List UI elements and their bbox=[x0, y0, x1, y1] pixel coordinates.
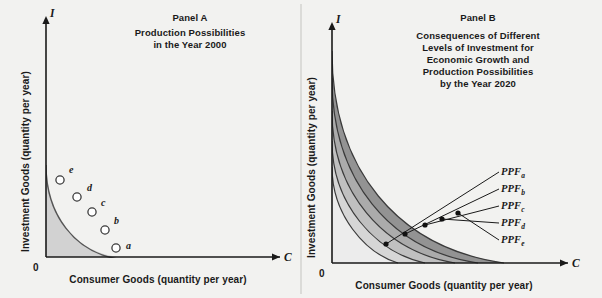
panel-a-point-d bbox=[73, 193, 81, 201]
ppf-c-sub: c bbox=[521, 205, 524, 214]
panel-a-origin-label: 0 bbox=[33, 262, 39, 275]
ppf-e-base: PPF bbox=[501, 234, 521, 245]
ppf-d-base: PPF bbox=[501, 217, 521, 228]
ppf-a-base: PPF bbox=[501, 166, 521, 177]
panel-a-subtitle-line2: in the Year 2000 bbox=[110, 39, 270, 51]
panel-b-subtitle-line3: Economic Growth and bbox=[398, 54, 558, 66]
panel-b-subtitle-line5: by the Year 2020 bbox=[398, 78, 558, 90]
panel-a-x-axis-letter: C bbox=[284, 250, 292, 264]
panel-a-point-e bbox=[56, 176, 64, 184]
panel-b-dot-e bbox=[455, 210, 460, 215]
panel-b-x-axis-letter: C bbox=[572, 256, 580, 270]
panel-b-subtitle-line1: Consequences of Different bbox=[398, 30, 558, 42]
ppf-a-sub: a bbox=[521, 171, 525, 180]
panel-a-subtitle-line1: Production Possibilities bbox=[110, 27, 270, 39]
panel-b-ppf-label-d: PPFd bbox=[501, 216, 525, 231]
ppf-b-sub: b bbox=[521, 188, 525, 197]
panel-a-point-label-c: c bbox=[101, 197, 106, 210]
panel-a-y-axis-label: Investment Goods (quantity per year) bbox=[20, 71, 33, 252]
panel-a-point-label-d: d bbox=[87, 182, 92, 195]
ppf-figure: Panel A Production Possibilities in the … bbox=[0, 0, 602, 298]
panel-a-point-c bbox=[88, 208, 96, 216]
panel-b-dot-d bbox=[439, 216, 444, 221]
ppf-e-sub: e bbox=[521, 239, 524, 248]
panel-b-ppf-label-e: PPFe bbox=[501, 233, 525, 248]
panel-a-x-axis-label: Consumer Goods (quantity per year) bbox=[50, 274, 266, 287]
ppf-b-base: PPF bbox=[501, 183, 521, 194]
panel-a-point-label-a: a bbox=[126, 240, 131, 253]
panel-b-dot-a bbox=[383, 241, 388, 246]
panel-b-x-axis-label: Consumer Goods (quantity per year) bbox=[336, 280, 552, 293]
panel-b-subtitle-line4: Production Possibilities bbox=[398, 66, 558, 78]
panel-a-point-label-b: b bbox=[114, 215, 119, 228]
panel-a-point-label-e: e bbox=[69, 164, 74, 177]
panel-b-subtitle-line2: Levels of Investment for bbox=[398, 42, 558, 54]
panel-b-y-axis-label: Investment Goods (quantity per year) bbox=[306, 77, 319, 258]
panel-b-dot-b bbox=[402, 231, 407, 236]
panel-b-y-axis-letter: I bbox=[336, 12, 341, 26]
ppf-d-sub: d bbox=[521, 222, 525, 231]
ppf-c-base: PPF bbox=[501, 200, 521, 211]
panel-a-point-a bbox=[112, 244, 120, 252]
panel-b-ppf-label-b: PPFb bbox=[501, 182, 525, 197]
panel-a-y-axis-letter: I bbox=[50, 6, 55, 20]
panel-a-point-b bbox=[101, 226, 109, 234]
panel-b-ppf-label-a: PPFa bbox=[501, 165, 525, 180]
panel-a-title: Panel A bbox=[130, 12, 250, 24]
panel-b-title: Panel B bbox=[418, 12, 538, 24]
panel-b-dot-c bbox=[422, 222, 427, 227]
panel-b-ppf-label-c: PPFc bbox=[501, 199, 525, 214]
panel-b-origin-label: 0 bbox=[319, 268, 325, 281]
